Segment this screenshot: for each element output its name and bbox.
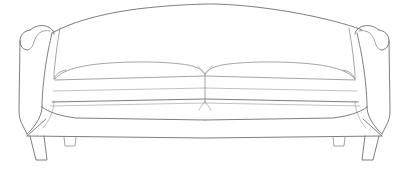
left-middle-leg <box>64 137 76 146</box>
base-bottom-line <box>27 136 382 138</box>
right-middle-leg <box>333 137 345 146</box>
left-front-leg <box>30 136 47 160</box>
sofa-legs <box>30 136 379 160</box>
sofa-drawing <box>0 0 413 173</box>
illustration-canvas <box>0 0 413 173</box>
right-front-leg <box>362 136 379 160</box>
sofa-back <box>18 4 390 136</box>
